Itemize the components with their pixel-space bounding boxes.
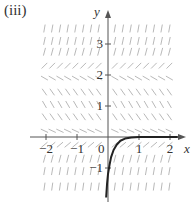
slope-segment	[122, 48, 124, 56]
slope-segment	[113, 114, 118, 121]
slope-segment	[122, 25, 123, 33]
slope-segment	[42, 89, 47, 96]
slope-segment	[167, 114, 172, 121]
slope-segment	[121, 101, 125, 108]
slope-segment	[159, 142, 165, 147]
slope-segment	[128, 63, 134, 69]
slope-segment	[83, 25, 84, 33]
slope-segment	[49, 129, 56, 132]
slope-segment	[168, 48, 170, 56]
slope-segment	[122, 37, 124, 45]
slope-segment	[58, 101, 62, 108]
slope-segment	[56, 76, 63, 80]
slope-segment	[136, 89, 141, 96]
slope-segment	[167, 89, 172, 96]
slope-segment	[127, 129, 134, 132]
axes: −2−112321−1 x y 0	[30, 4, 190, 202]
slope-segment	[73, 101, 77, 108]
slope-segment	[128, 89, 133, 96]
slope-segment	[151, 63, 157, 69]
slope-segment	[153, 48, 155, 56]
slope-segment	[129, 101, 133, 108]
slope-segment	[161, 167, 162, 175]
slope-segment	[98, 183, 99, 191]
slope-segment	[64, 76, 71, 80]
slope-segment	[122, 167, 123, 175]
slope-segment	[75, 37, 77, 45]
slope-segment	[90, 183, 91, 191]
slope-segment	[42, 101, 46, 108]
slope-segment	[130, 37, 132, 45]
slope-segment	[113, 101, 117, 108]
slope-segment	[59, 25, 60, 33]
slope-segment	[159, 114, 164, 121]
slope-segment	[161, 155, 163, 163]
slope-segment	[121, 89, 126, 96]
slope-segment	[89, 101, 93, 108]
slope-segment	[50, 89, 55, 96]
slope-segment	[130, 25, 131, 33]
slope-segment	[96, 89, 101, 96]
slope-segment	[49, 63, 55, 69]
slope-segment	[145, 167, 146, 175]
slope-segment	[158, 129, 165, 132]
slope-segment	[161, 48, 163, 56]
slope-segment	[153, 25, 154, 33]
slope-segment	[57, 63, 63, 69]
slope-segment	[143, 129, 150, 132]
y-axis-label: y	[92, 4, 100, 19]
slope-segment	[50, 101, 54, 108]
slope-segment	[135, 129, 142, 132]
slope-segment	[169, 25, 170, 33]
slope-segment	[161, 37, 163, 45]
slope-segment	[138, 183, 139, 191]
slope-segment	[65, 63, 71, 69]
slope-segment	[159, 63, 165, 69]
slope-segment	[121, 114, 126, 121]
slope-segment	[152, 101, 156, 108]
slope-segment	[153, 155, 155, 163]
slope-segment	[67, 183, 68, 191]
x-tick-label: 2	[167, 141, 174, 156]
slope-field-figure: −2−112321−1 x y 0	[0, 0, 194, 202]
slope-segment	[153, 167, 154, 175]
axis-ticks: −2−112321−1	[39, 36, 173, 175]
slope-segment	[52, 25, 53, 33]
slope-segment	[51, 48, 53, 56]
slope-segment	[51, 37, 53, 45]
slope-segment	[161, 183, 162, 191]
slope-segment	[114, 37, 116, 45]
slope-segment	[114, 155, 116, 163]
slope-segment	[83, 183, 84, 191]
slope-segment	[74, 48, 76, 56]
slope-segment	[167, 63, 173, 69]
slope-segment	[128, 142, 134, 147]
slope-field	[41, 25, 173, 191]
slope-segment	[59, 37, 61, 45]
slope-segment	[160, 101, 164, 108]
slope-segment	[75, 167, 76, 175]
slope-segment	[89, 89, 94, 96]
slope-segment	[167, 101, 171, 108]
slope-segment	[59, 48, 61, 56]
slope-segment	[58, 89, 63, 96]
slope-segment	[65, 89, 70, 96]
slope-segment	[169, 37, 171, 45]
x-tick-label: 1	[136, 141, 143, 156]
slope-segment	[143, 76, 150, 80]
slope-segment	[73, 89, 78, 96]
slope-segment	[56, 129, 63, 132]
slope-segment	[80, 129, 87, 132]
slope-segment	[89, 114, 94, 121]
slope-segment	[67, 25, 68, 33]
slope-segment	[137, 48, 139, 56]
slope-segment	[143, 142, 149, 147]
slope-segment	[57, 142, 63, 147]
slope-segment	[122, 183, 123, 191]
slope-segment	[44, 167, 45, 175]
slope-segment	[138, 25, 139, 33]
origin-label: 0	[98, 141, 105, 156]
slope-segment	[158, 76, 165, 80]
slope-segment	[44, 37, 46, 45]
slope-segment	[87, 76, 94, 80]
